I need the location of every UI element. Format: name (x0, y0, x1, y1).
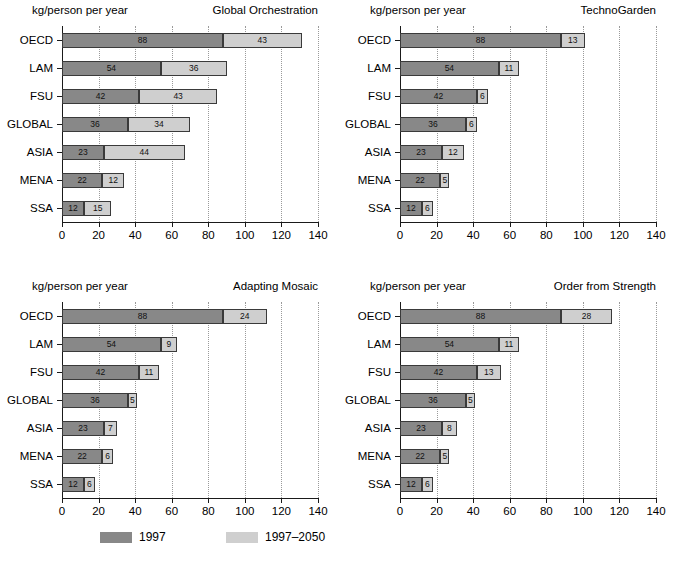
y-axis-category-label: MENA (358, 174, 391, 186)
x-axis-tick-label: 40 (467, 229, 480, 241)
bar-segment-value: 22 (62, 173, 102, 188)
plot-area: 020406080100120140OECD8813LAM5411FSU426G… (400, 26, 656, 222)
bar-segment-value: 88 (62, 33, 223, 48)
bar-segment-value: 12 (62, 201, 84, 216)
legend-swatch-1997 (100, 532, 132, 543)
x-axis-tick-label: 20 (430, 505, 443, 517)
x-axis-tick-label: 60 (165, 229, 178, 241)
bar-segment-value: 42 (400, 89, 477, 104)
x-axis-tick-label: 120 (272, 229, 291, 241)
x-axis-tick (62, 222, 63, 227)
bar-segment-value: 12 (62, 477, 84, 492)
bar-segment-value: 22 (400, 173, 440, 188)
bar-segment-value: 43 (139, 89, 218, 104)
bar-segment-value: 6 (477, 89, 488, 104)
x-axis-tick (473, 222, 474, 227)
bar-segment-value: 88 (400, 309, 561, 324)
bar-segment-value: 23 (400, 145, 442, 160)
x-gridline (281, 26, 283, 222)
bar-segment-value: 42 (62, 365, 139, 380)
y-axis-category-label: GLOBAL (345, 394, 391, 406)
x-gridline (619, 302, 621, 498)
x-gridline (656, 302, 658, 498)
bar-segment-value: 22 (400, 449, 440, 464)
x-gridline (619, 26, 621, 222)
x-gridline (245, 26, 247, 222)
x-axis-tick (208, 498, 209, 503)
x-axis-tick-label: 80 (540, 505, 553, 517)
y-axis-category-label: OECD (20, 34, 53, 46)
x-gridline (583, 26, 585, 222)
y-axis-category-label: FSU (30, 366, 53, 378)
bar-segment-value: 24 (223, 309, 267, 324)
bar-segment-value: 6 (84, 477, 95, 492)
y-axis-category-label: ASIA (27, 422, 53, 434)
x-axis-tick-label: 80 (540, 229, 553, 241)
x-axis-tick-label: 60 (503, 505, 516, 517)
panel-title: Adapting Mosaic (233, 280, 318, 292)
panel-header: kg/person per year TechnoGarden (338, 4, 664, 20)
x-axis-line (62, 222, 318, 223)
bar-segment-value: 12 (442, 145, 464, 160)
bar-segment-value: 42 (400, 365, 477, 380)
bar-segment-value: 11 (139, 365, 159, 380)
x-gridline (546, 26, 548, 222)
x-axis-tick-label: 100 (573, 229, 592, 241)
x-gridline (208, 26, 210, 222)
bar-segment-value: 11 (499, 337, 519, 352)
x-axis-tick-label: 140 (646, 229, 665, 241)
panel-title: Global Orchestration (213, 4, 318, 16)
bar-segment-value: 36 (400, 117, 466, 132)
x-axis-tick-label: 0 (59, 505, 65, 517)
x-gridline (510, 302, 512, 498)
bar-segment-value: 12 (400, 201, 422, 216)
x-axis-tick (473, 498, 474, 503)
y-axis-category-label: SSA (30, 478, 53, 490)
x-axis-tick-label: 20 (92, 229, 105, 241)
bar-segment-value: 7 (104, 421, 117, 436)
y-axis-category-label: LAM (367, 338, 391, 350)
plot-area: 020406080100120140OECD8828LAM5411FSU4213… (400, 302, 656, 498)
x-axis-tick-label: 40 (129, 505, 142, 517)
x-axis-line (62, 498, 318, 499)
x-axis-tick (437, 498, 438, 503)
y-axis-category-label: FSU (30, 90, 53, 102)
chart-panel-global-orchestration: kg/person per year Global Orchestration … (0, 0, 338, 262)
x-axis-tick (245, 222, 246, 227)
x-gridline (208, 302, 210, 498)
x-axis-tick-label: 20 (92, 505, 105, 517)
x-axis-tick (318, 498, 319, 503)
legend-item-1997-2050: 1997–2050 (226, 528, 325, 546)
x-axis-tick (99, 222, 100, 227)
x-axis-tick-label: 40 (129, 229, 142, 241)
y-axis-category-label: FSU (368, 90, 391, 102)
x-gridline (318, 302, 320, 498)
y-axis-category-label: OECD (358, 310, 391, 322)
bar-segment-value: 22 (62, 449, 102, 464)
x-axis-tick (318, 222, 319, 227)
x-axis-tick (172, 222, 173, 227)
bar-segment-value: 88 (400, 33, 561, 48)
x-gridline (583, 302, 585, 498)
panel-header: kg/person per year Adapting Mosaic (0, 280, 326, 296)
x-gridline (318, 26, 320, 222)
y-axis-category-label: LAM (29, 338, 53, 350)
x-axis-tick (437, 222, 438, 227)
legend-swatch-1997-2050 (226, 532, 258, 543)
bar-segment-value: 36 (62, 393, 128, 408)
x-axis-tick (62, 498, 63, 503)
x-axis-tick (208, 222, 209, 227)
bar-segment-value: 23 (62, 145, 104, 160)
x-axis-line (400, 222, 656, 223)
x-axis-tick-label: 20 (430, 229, 443, 241)
x-gridline (172, 302, 174, 498)
bar-segment-value: 15 (84, 201, 111, 216)
unit-label: kg/person per year (370, 4, 466, 16)
x-axis-tick (99, 498, 100, 503)
figure-root: kg/person per year Global Orchestration … (0, 0, 676, 564)
bar-segment-value: 36 (62, 117, 128, 132)
y-axis-category-label: ASIA (365, 146, 391, 158)
x-gridline (546, 302, 548, 498)
x-axis-line (400, 498, 656, 499)
chart-panel-order-from-strength: kg/person per year Order from Strength 0… (338, 276, 676, 538)
